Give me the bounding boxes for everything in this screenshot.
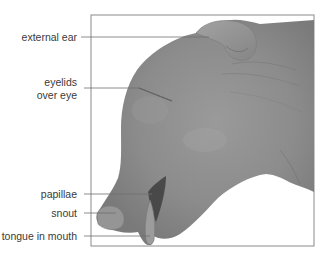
label-tongue: tongue in mouth — [0, 230, 77, 243]
snout-disc — [97, 206, 124, 230]
label-eyelids-line2: over eye — [0, 89, 77, 102]
label-papillae-text: papillae — [41, 188, 77, 200]
label-external-ear-text: external ear — [22, 31, 77, 43]
label-snout-text: snout — [51, 207, 77, 219]
diagram-canvas: external ear eyelids over eye papillae s… — [0, 0, 327, 257]
label-eyelids-line1: eyelids — [0, 76, 77, 89]
label-tongue-text: tongue in mouth — [2, 230, 77, 242]
label-papillae: papillae — [0, 188, 77, 201]
label-snout: snout — [0, 207, 77, 220]
label-eyelids: eyelids over eye — [0, 76, 77, 102]
label-external-ear: external ear — [0, 31, 77, 44]
